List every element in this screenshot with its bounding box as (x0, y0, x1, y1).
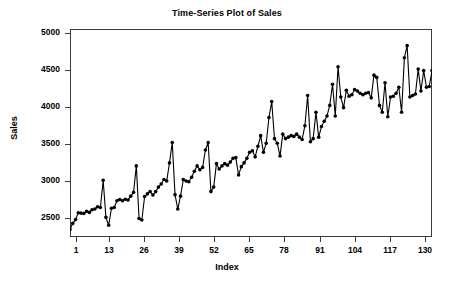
x-tick-label: 65 (234, 245, 264, 255)
chart-title: Time-Series Plot of Sales (0, 8, 454, 18)
series-line-sales (70, 46, 432, 230)
x-tick-mark (214, 237, 215, 242)
x-tick-mark (390, 237, 391, 242)
x-tick-label: 52 (199, 245, 229, 255)
y-tick-label: 5000 (26, 27, 60, 37)
x-tick-label: 117 (375, 245, 405, 255)
x-tick-mark (76, 237, 77, 242)
y-tick-mark (65, 144, 70, 145)
x-axis-title: Index (0, 262, 454, 272)
y-tick-mark (65, 181, 70, 182)
y-tick-label: 2500 (26, 212, 60, 222)
x-tick-mark (320, 237, 321, 242)
x-tick-mark (179, 237, 180, 242)
series-markers-sales (70, 44, 432, 231)
x-tick-mark (355, 237, 356, 242)
x-tick-label: 1 (61, 245, 91, 255)
y-tick-label: 4000 (26, 101, 60, 111)
y-tick-label: 3500 (26, 138, 60, 148)
y-tick-label: 4500 (26, 64, 60, 74)
y-tick-mark (65, 107, 70, 108)
y-tick-label: 3000 (26, 175, 60, 185)
x-tick-label: 13 (94, 245, 124, 255)
x-tick-mark (109, 237, 110, 242)
plot-area (70, 29, 432, 237)
x-tick-label: 26 (129, 245, 159, 255)
x-tick-label: 78 (269, 245, 299, 255)
x-tick-label: 130 (410, 245, 440, 255)
chart-page: Time-Series Plot of Sales 25003000350040… (0, 0, 454, 284)
y-tick-mark (65, 218, 70, 219)
y-tick-mark (65, 33, 70, 34)
x-tick-mark (144, 237, 145, 242)
x-tick-mark (249, 237, 250, 242)
x-tick-mark (425, 237, 426, 242)
x-tick-label: 104 (340, 245, 370, 255)
y-axis-title: Sales (9, 98, 19, 158)
x-tick-mark (284, 237, 285, 242)
x-tick-label: 91 (305, 245, 335, 255)
x-tick-label: 39 (164, 245, 194, 255)
y-tick-mark (65, 70, 70, 71)
